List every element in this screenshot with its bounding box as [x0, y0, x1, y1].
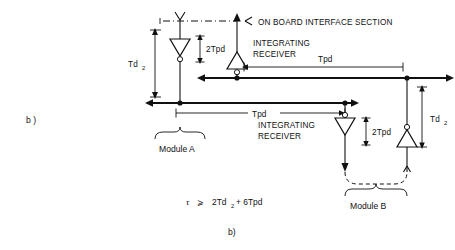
twotpd-module-b-down-arrowhead — [363, 141, 368, 147]
twotpd-module-b-up-arrowhead — [363, 116, 368, 122]
upper-bus-right-arrowhead — [446, 74, 454, 82]
module-b-driver-inverter — [397, 78, 417, 172]
td2-right-label-sub: 2 — [444, 120, 447, 126]
module-a-driver-inverter — [170, 30, 190, 103]
td2-right-label-text: Td — [430, 115, 440, 124]
twotpd-top-left-label: 2Tpd — [206, 45, 226, 54]
integrating-receiver-a-line2: RECEIVER — [253, 50, 296, 59]
td2-right-label: Td 2 — [430, 115, 447, 126]
integrating-receiver-b-line1: INTEGRATING — [258, 121, 315, 130]
module-b-dashed-loopback — [345, 172, 407, 184]
interface-chevron-icon — [245, 17, 252, 25]
circuit-timing-diagram: ON BOARD INTERFACE SECTION INTEGRATING R… — [0, 0, 455, 250]
lower-bus-right-arrowhead — [351, 99, 359, 107]
figure-root: ON BOARD INTERFACE SECTION INTEGRATING R… — [0, 0, 455, 250]
lower-bus-line — [145, 99, 359, 107]
module-b-label: Module B — [350, 201, 387, 211]
tpd-middle-label: Tpd — [252, 110, 267, 119]
td2-left-down-arrowhead — [152, 92, 158, 99]
td2-right-down-arrowhead — [419, 143, 425, 150]
module-b-brace — [345, 184, 407, 196]
module-a-brace — [155, 127, 205, 139]
integrating-receiver-b-line2: RECEIVER — [258, 132, 301, 141]
td2-left-label: Td 2 — [128, 60, 145, 71]
td2-right-dimension — [417, 85, 427, 149]
twotpd-module-b-dimension — [362, 116, 371, 147]
formula-tau-symbol: τ — [186, 197, 190, 207]
lower-bus-node-module-a — [177, 100, 182, 105]
td2-right-up-arrowhead — [419, 85, 425, 92]
twotpd-top-left-down-arrowhead — [197, 58, 202, 64]
upper-bus-node-receiver-a — [234, 75, 239, 80]
integrating-receiver-a-line1: INTEGRATING — [253, 39, 310, 48]
td2-left-label-text: Td — [128, 60, 138, 69]
twotpd-module-b-label: 2Tpd — [372, 128, 392, 137]
timing-formula: τ ⩾ 2Td 2 + 6Tpd — [186, 197, 263, 209]
part-label-left: b ) — [26, 115, 36, 125]
td2-left-label-sub: 2 — [142, 65, 145, 71]
upper-bus-left-arrowhead — [197, 74, 205, 82]
interface-section-label: ON BOARD INTERFACE SECTION — [258, 18, 392, 27]
twotpd-top-left-dimension — [196, 34, 205, 64]
figure-caption-bottom: b) — [228, 227, 236, 237]
formula-term-b: + 6Tpd — [236, 197, 263, 207]
formula-term-a: 2Td — [212, 197, 227, 207]
formula-term-a-subscript: 2 — [231, 203, 234, 209]
tpd-upper-right-label: Tpd — [318, 55, 333, 64]
twotpd-top-left-up-arrowhead — [197, 34, 202, 40]
formula-relation-symbol: ⩾ — [197, 197, 204, 207]
module-a-label: Module A — [159, 144, 195, 154]
receiver-a-up-arrowhead — [233, 13, 241, 22]
upper-bus-line — [197, 74, 454, 82]
module-b-receiver-down-arrowhead — [342, 163, 349, 172]
td2-left-up-arrowhead — [152, 28, 158, 35]
td2-left-dimension — [150, 28, 161, 99]
lower-bus-left-arrowhead — [145, 99, 153, 107]
